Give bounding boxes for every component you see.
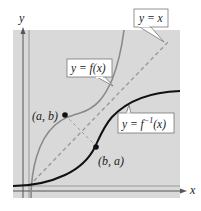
inverse-callout-text: y = f−1(x) [121, 116, 166, 131]
function-callout-text: y = f(x) [70, 62, 106, 75]
y-axis-label: y [18, 11, 25, 25]
identity-callout-text: y = x [138, 12, 164, 25]
point-a-b-label: (a, b) [32, 109, 58, 123]
inverse-function-diagram: y x (a, b) (b, a) y = x y = f(x) y = f−1… [0, 0, 201, 211]
x-axis-arrow-icon [180, 189, 187, 194]
x-axis-label: x [189, 183, 196, 197]
point-b-a [93, 144, 99, 150]
point-b-a-label: (b, a) [98, 154, 124, 168]
point-a-b [62, 112, 68, 118]
